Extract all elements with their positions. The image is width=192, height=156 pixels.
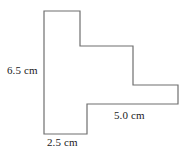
staircase-polygon-svg — [0, 0, 192, 156]
dimension-label-bottom: 2.5 cm — [47, 136, 78, 149]
dimension-label-right: 5.0 cm — [114, 109, 145, 122]
geometry-figure: 6.5 cm 5.0 cm 2.5 cm — [0, 0, 192, 156]
figure-background — [0, 0, 192, 156]
dimension-label-height: 6.5 cm — [7, 64, 38, 77]
